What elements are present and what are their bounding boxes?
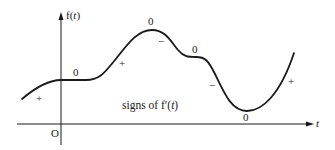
- sign-left-plus: +: [36, 93, 42, 104]
- sign-first-zero: 0: [73, 67, 79, 78]
- sign-plateau-zero: 0: [192, 44, 198, 55]
- derivative-sign-diagram: f(t) t O + 0 + 0 − 0 − 0 + signs of f′(t…: [0, 0, 335, 150]
- y-axis-label: f(t): [66, 10, 80, 21]
- sign-peak-zero: 0: [148, 16, 154, 27]
- y-axis-arrow-icon: [59, 12, 64, 20]
- x-axis-label: t: [316, 118, 319, 129]
- sign-rising-plus: +: [119, 58, 125, 69]
- x-axis-arrow-icon: [306, 122, 314, 127]
- sign-min-zero: 0: [243, 112, 249, 123]
- sign-right-plus: +: [288, 76, 294, 87]
- sign-after-peak-minus: −: [158, 36, 164, 47]
- signs-caption: signs of f′(t): [122, 100, 178, 112]
- sign-falling-minus: −: [209, 80, 215, 91]
- origin-label: O: [51, 128, 59, 139]
